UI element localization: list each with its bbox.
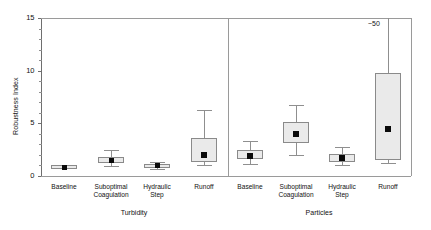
boxplot-figure: Robustness Index 051015 BaselineSuboptim…: [0, 0, 431, 230]
box-glyph: [191, 138, 217, 162]
plot-frame-edge: [41, 18, 411, 19]
whisker-cap: [104, 150, 119, 151]
median-marker: [339, 155, 345, 161]
panel-divider: [228, 18, 229, 176]
y-tick-minor: [39, 60, 42, 61]
panel-group-label: Turbidity: [41, 209, 228, 216]
y-tick-minor: [39, 134, 42, 135]
whisker-cap: [335, 165, 350, 166]
whisker-cap: [197, 165, 212, 166]
y-tick-minor: [39, 113, 42, 114]
whisker-cap: [150, 169, 165, 170]
off-scale-annotation: ~50: [368, 20, 380, 27]
y-tick-label: 0: [15, 172, 35, 180]
y-tick-minor: [39, 50, 42, 51]
median-marker: [109, 158, 114, 163]
y-axis-line: [41, 18, 42, 177]
median-marker: [385, 126, 391, 132]
x-tick-label: Runoff: [357, 183, 419, 191]
whisker-cap: [381, 163, 396, 164]
y-tick-minor: [39, 92, 42, 93]
y-tick-major: [38, 71, 42, 72]
y-tick-minor: [39, 39, 42, 40]
y-tick-minor: [39, 144, 42, 145]
median-marker: [247, 153, 253, 159]
y-tick-major: [38, 123, 42, 124]
plot-frame-edge: [41, 176, 411, 177]
whisker-cap: [104, 166, 119, 167]
y-tick-minor: [39, 81, 42, 82]
median-marker: [201, 152, 207, 158]
median-marker: [155, 163, 160, 168]
y-tick-label: 15: [15, 14, 35, 22]
y-tick-label: 5: [15, 119, 35, 127]
whisker-cap: [243, 141, 258, 142]
panel-group-label: Particles: [228, 209, 411, 216]
plot-frame-edge: [411, 18, 412, 176]
y-tick-minor: [39, 155, 42, 156]
median-marker: [293, 131, 299, 137]
y-tick-minor: [39, 29, 42, 30]
whisker-cap: [289, 155, 304, 156]
y-tick-minor: [39, 165, 42, 166]
whisker-cap: [243, 164, 258, 165]
median-marker: [62, 165, 67, 170]
whisker-cap: [335, 147, 350, 148]
whisker-cap: [197, 110, 212, 111]
box-glyph: [375, 73, 401, 160]
y-tick-label: 10: [15, 67, 35, 75]
whisker-cap: [289, 105, 304, 106]
y-tick-minor: [39, 102, 42, 103]
